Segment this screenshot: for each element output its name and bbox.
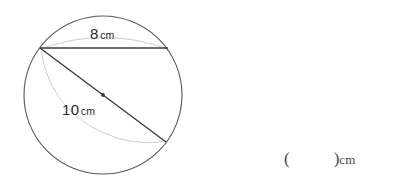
answer-blank[interactable]: ()cm bbox=[284, 150, 356, 167]
diameter-length-value: 10 bbox=[62, 101, 79, 118]
diameter-length-label: 10cm bbox=[62, 102, 95, 118]
diameter-length-unit: cm bbox=[81, 105, 95, 117]
chord-length-label: 8cm bbox=[90, 26, 115, 42]
center-point-dot bbox=[101, 93, 105, 97]
answer-open-paren: ( bbox=[284, 149, 290, 168]
chord-length-unit: cm bbox=[100, 29, 114, 41]
answer-unit-label: cm bbox=[339, 152, 355, 167]
chord-length-value: 8 bbox=[90, 25, 99, 42]
